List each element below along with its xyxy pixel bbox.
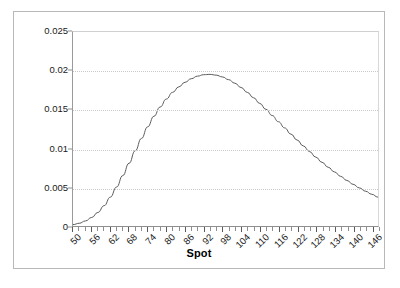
x-axis-minor-tick [122,227,123,231]
x-axis-minor-tick [103,227,104,231]
x-axis-minor-tick [191,227,192,231]
x-axis-minor-tick [304,227,305,231]
x-axis-minor-tick [254,227,255,231]
x-axis-minor-tick [197,227,198,231]
x-axis-minor-tick [348,227,349,231]
chart-frame: 00.0050.010.0150.020.025 505662687480869… [13,11,385,269]
x-axis-minor-tick [216,227,217,231]
x-axis-minor-tick [366,227,367,231]
x-axis-minor-tick [341,227,342,231]
density-curve [73,32,378,226]
plot-area [72,31,379,227]
y-axis-tick-label: 0.005 [18,183,68,193]
x-axis-minor-tick [360,227,361,231]
x-axis-minor-tick [235,227,236,231]
x-axis-minor-tick [323,227,324,231]
x-axis-minor-tick [172,227,173,231]
x-axis-minor-tick [266,227,267,231]
x-axis-tick-label: 68 [125,232,139,246]
x-axis-minor-tick [116,227,117,231]
x-axis-minor-tick [229,227,230,231]
x-axis-minor-tick [329,227,330,231]
x-axis-minor-tick [272,227,273,231]
x-axis-minor-tick [153,227,154,231]
x-axis-minor-tick [210,227,211,231]
x-axis-tick-label: 80 [162,232,176,246]
x-axis-minor-tick [135,227,136,231]
x-axis-tick-label: 56 [87,232,101,246]
y-axis-tick-label: 0.015 [18,105,68,115]
x-axis-title: Spot [14,247,384,259]
y-axis-tick-label: 0 [18,222,68,232]
x-axis-minor-tick [85,227,86,231]
x-axis-minor-tick [179,227,180,231]
x-axis-tick-label: 92 [200,232,214,246]
x-axis-tick-label: 98 [219,232,233,246]
x-axis-tick-label: 86 [181,232,195,246]
x-axis-minor-tick [160,227,161,231]
x-axis-tick-label: 62 [106,232,120,246]
gridline [73,71,378,72]
y-axis-tick-label: 0.01 [18,144,68,154]
gridline [73,110,378,111]
y-axis-tick-label: 0.025 [18,26,68,36]
x-axis-minor-tick [379,227,380,231]
x-axis-minor-tick [291,227,292,231]
gridline [73,189,378,190]
x-axis-tick-label: 50 [69,232,83,246]
x-axis-tick-label: 74 [144,232,158,246]
x-axis-minor-tick [97,227,98,231]
x-axis-minor-tick [310,227,311,231]
x-axis-minor-tick [285,227,286,231]
x-axis-minor-tick [247,227,248,231]
y-axis: 00.0050.010.0150.020.025 [14,31,68,227]
x-axis-minor-tick [78,227,79,231]
y-axis-tick-label: 0.02 [18,65,68,75]
x-axis-minor-tick [141,227,142,231]
gridline [73,150,378,151]
